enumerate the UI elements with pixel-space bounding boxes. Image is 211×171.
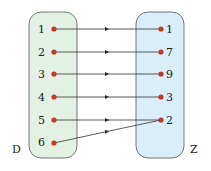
d-element-2: 2 [38, 46, 45, 59]
d-element-5: 5 [38, 114, 45, 127]
d-element-6: 6 [38, 136, 45, 149]
z-element-3: 3 [166, 91, 173, 104]
z-element-7: 7 [166, 46, 173, 59]
d-element-1: 1 [38, 23, 45, 36]
set-d-label: D [12, 143, 21, 156]
mapping-diagram: 1 2 3 4 5 6 1 7 9 3 2 D Z [0, 0, 211, 171]
set-d-oval [29, 12, 77, 158]
set-z-label: Z [190, 143, 198, 156]
z-element-2: 2 [166, 114, 173, 127]
set-z-oval [136, 12, 184, 158]
z-element-9: 9 [166, 68, 173, 81]
d-element-4: 4 [38, 91, 45, 104]
d-element-3: 3 [38, 68, 45, 81]
z-element-1: 1 [166, 23, 173, 36]
